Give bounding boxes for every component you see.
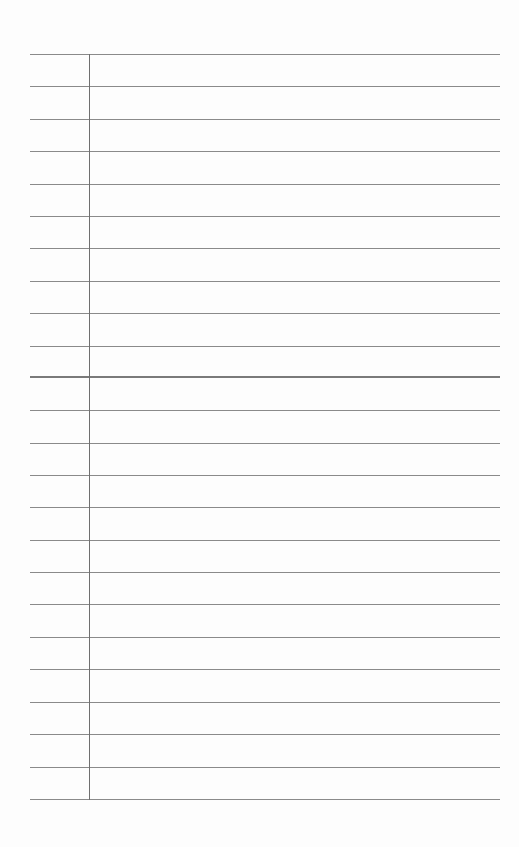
ruled-line [30, 669, 500, 670]
lined-paper [0, 0, 519, 847]
ruled-line [30, 507, 500, 508]
divider-rule [30, 376, 500, 378]
ruled-line [30, 281, 500, 282]
ruled-line [30, 572, 500, 573]
ruled-line [30, 702, 500, 703]
ruled-line [30, 604, 500, 605]
ruled-line [30, 734, 500, 735]
ruled-line [30, 184, 500, 185]
ruled-line [30, 767, 500, 768]
ruled-line [30, 248, 500, 249]
ruled-line [30, 346, 500, 347]
ruled-line [30, 637, 500, 638]
ruled-line [30, 540, 500, 541]
margin-line [89, 54, 90, 800]
ruled-line [30, 216, 500, 217]
ruled-line [30, 86, 500, 87]
ruled-line [30, 151, 500, 152]
ruled-line [30, 119, 500, 120]
ruled-line [30, 799, 500, 800]
ruled-line [30, 475, 500, 476]
ruled-line [30, 313, 500, 314]
ruled-line [30, 443, 500, 444]
ruled-line [30, 54, 500, 55]
ruled-line [30, 410, 500, 411]
